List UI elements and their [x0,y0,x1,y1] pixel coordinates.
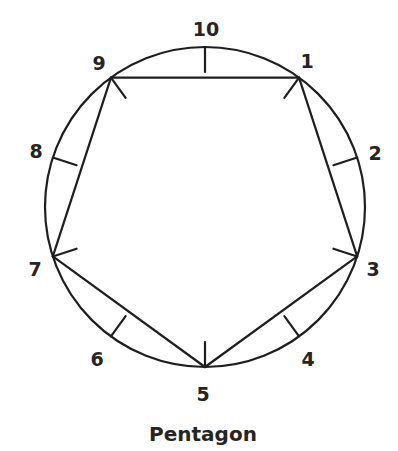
tick-mark-2 [333,158,357,166]
tick-mark-8 [53,158,77,166]
tick-mark-9 [111,78,126,98]
tick-mark-3 [333,249,357,257]
pentagon-edges [53,78,357,367]
edge-5-7 [53,256,205,367]
point-label-7: 7 [28,258,41,280]
point-label-4: 4 [301,348,314,370]
point-label-9: 9 [92,52,105,74]
point-label-8: 8 [29,140,42,162]
point-label-10: 10 [193,18,219,40]
point-label-3: 3 [366,258,379,280]
point-ticks [53,47,357,367]
tick-mark-1 [284,78,299,98]
tick-mark-6 [111,316,126,336]
point-label-2: 2 [368,142,381,164]
tick-mark-4 [284,316,299,336]
circle [45,47,365,367]
point-label-5: 5 [196,383,209,405]
figure-title: Pentagon [149,422,257,446]
edge-3-5 [205,256,357,367]
tick-mark-7 [53,249,77,257]
point-label-1: 1 [300,50,313,72]
pentagon-diagram: 12345678910 Pentagon [0,0,398,451]
point-label-6: 6 [90,348,103,370]
